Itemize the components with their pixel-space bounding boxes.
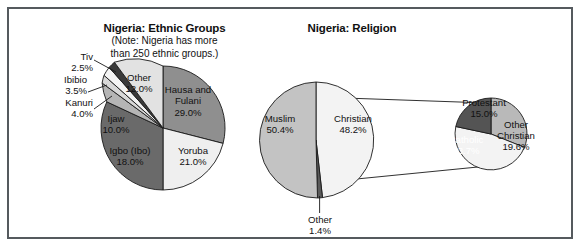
label-catholic: Catholic 13.7% (440, 134, 492, 157)
label-igbo-value: 18.0% (99, 156, 161, 167)
label-muslim: Muslim 50.4% (250, 113, 310, 136)
label-ibibio-name: Ibibio (18, 74, 87, 85)
label-christian-value: 48.2% (322, 124, 384, 135)
label-protestant: Protestant 15.0% (453, 97, 515, 120)
label-other-ethnic: Other 12.0% (117, 72, 161, 95)
ethnic-chart-title: Nigeria: Ethnic Groups (82, 22, 247, 34)
label-other-christian-name2: Christian (490, 130, 542, 141)
label-igbo: Igbo (Ibo) 18.0% (99, 145, 161, 168)
label-ijaw-name: Ijaw (96, 113, 136, 124)
label-catholic-value: 13.7% (440, 145, 492, 156)
label-catholic-name: Catholic (440, 134, 492, 145)
label-other-ethnic-name: Other (117, 72, 161, 83)
label-igbo-name: Igbo (Ibo) (99, 145, 161, 156)
slice-muslim (260, 82, 318, 198)
label-other-christian-value: 19.6% (490, 141, 542, 152)
label-tiv-name: Tiv (26, 51, 93, 62)
label-protestant-name: Protestant (453, 97, 515, 108)
label-other-religion-value: 1.4% (293, 225, 347, 236)
label-ijaw: Ijaw 10.0% (96, 113, 136, 136)
label-other-ethnic-value: 12.0% (117, 83, 161, 94)
label-other-christian: Other Christian 19.6% (490, 119, 542, 152)
label-christian-name: Christian (322, 113, 384, 124)
label-ibibio: Ibibio 3.5% (18, 74, 87, 97)
ethnic-chart-subtitle-line2: than 250 ethnic groups.) (82, 48, 247, 61)
label-other-religion: Other 1.4% (293, 214, 347, 237)
label-yoruba: Yoruba 21.0% (163, 145, 223, 168)
religion-pie (260, 82, 374, 213)
label-tiv: Tiv 2.5% (26, 51, 93, 74)
label-other-christian-name1: Other (490, 119, 542, 130)
label-hausa-fulani-name1: Hausa and (152, 84, 224, 95)
label-hausa-fulani: Hausa and Fulani 29.0% (152, 84, 224, 118)
label-yoruba-name: Yoruba (163, 145, 223, 156)
religion-chart-title: Nigeria: Religion (262, 22, 442, 34)
label-muslim-name: Muslim (250, 113, 310, 124)
label-kanuri-value: 4.0% (14, 108, 93, 119)
label-hausa-fulani-name2: Fulani (152, 95, 224, 106)
figure-root: Nigeria: Ethnic Groups (Note: Nigeria ha… (0, 0, 581, 247)
label-hausa-fulani-value: 29.0% (152, 107, 224, 118)
label-kanuri-name: Kanuri (14, 97, 93, 108)
ethnic-chart-subtitle: (Note: Nigeria has more than 250 ethnic … (82, 35, 247, 60)
label-tiv-value: 2.5% (26, 62, 93, 73)
label-muslim-value: 50.4% (250, 124, 310, 135)
ethnic-chart-subtitle-line1: (Note: Nigeria has more (82, 35, 247, 48)
label-other-religion-name: Other (293, 214, 347, 225)
label-ibibio-value: 3.5% (18, 85, 87, 96)
label-ijaw-value: 10.0% (96, 124, 136, 135)
label-kanuri: Kanuri 4.0% (14, 97, 93, 120)
label-christian: Christian 48.2% (322, 113, 384, 136)
label-yoruba-value: 21.0% (163, 156, 223, 167)
